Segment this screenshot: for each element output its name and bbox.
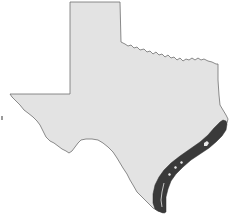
- stray-mark: [1, 116, 3, 120]
- texas-map: [0, 0, 230, 216]
- texas-map-svg: [0, 0, 230, 216]
- texas-state-shape: [10, 2, 228, 213]
